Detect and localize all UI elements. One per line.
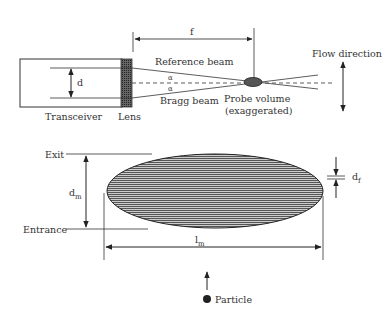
probe-volume-label: Probe volume [224, 93, 291, 104]
alpha-upper-label: α [168, 74, 173, 82]
lidar-probe-volume-diagram: d Transceiver Lens f Reference beam Brag… [0, 0, 392, 321]
flow-direction: Flow direction [312, 48, 382, 111]
particle: Particle [203, 272, 252, 305]
probe-volume-sublabel: (exaggerated) [225, 105, 293, 116]
lens [121, 59, 132, 107]
alpha-lower-label: α [168, 85, 173, 93]
dm-label: dm [69, 187, 82, 201]
measurement-volume-detail: Exit Entrance dm lm df [23, 149, 362, 260]
measurement-volume [107, 154, 323, 228]
d-label: d [77, 77, 83, 88]
df-label: df [352, 171, 362, 185]
bragg-beam-label: Bragg beam [160, 95, 219, 106]
probe-volume [244, 78, 262, 87]
transceiver-assembly: d Transceiver Lens [20, 59, 141, 122]
flow-direction-label: Flow direction [312, 48, 382, 59]
particle-label: Particle [215, 294, 252, 305]
particle-dot [203, 295, 211, 303]
lens-label: Lens [118, 111, 141, 122]
focal-label: f [190, 26, 195, 37]
entrance-label: Entrance [23, 224, 68, 235]
lm-label: lm [195, 234, 205, 248]
transceiver-label: Transceiver [45, 111, 103, 122]
exit-label: Exit [45, 149, 64, 160]
reference-beam-label: Reference beam [155, 56, 234, 67]
